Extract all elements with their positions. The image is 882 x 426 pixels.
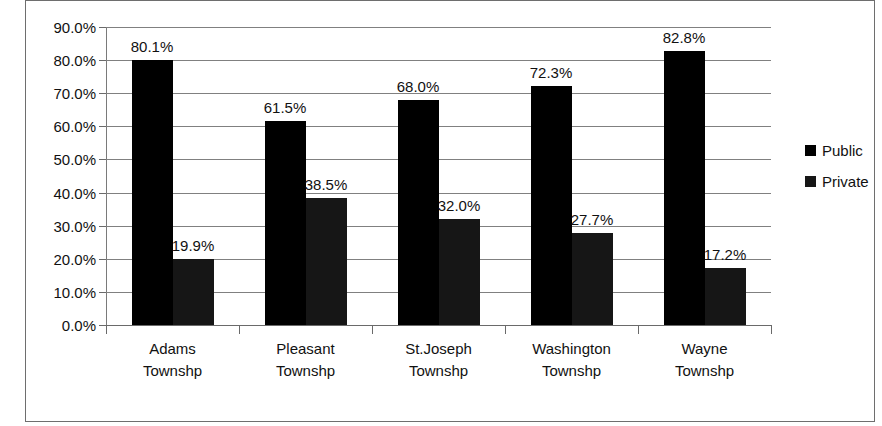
category-label-line: Townshp — [239, 360, 372, 382]
bar-private-1 — [306, 198, 347, 325]
category-label-line: St.Joseph — [372, 338, 505, 360]
bar-public-3 — [531, 86, 572, 325]
legend-label: Public — [822, 143, 863, 158]
y-axis-tick — [99, 93, 106, 94]
legend-swatch-icon — [805, 176, 816, 187]
y-axis-tick-label: 20.0% — [20, 252, 96, 267]
category-label-4: WayneTownshp — [638, 338, 771, 382]
bar-public-0 — [132, 60, 173, 325]
legend-swatch-icon — [805, 145, 816, 156]
data-label-public-0: 80.1% — [117, 39, 187, 54]
bar-private-3 — [572, 233, 613, 325]
category-label-line: Adams — [106, 338, 239, 360]
bar-private-4 — [705, 268, 746, 325]
y-axis-tick-label: 10.0% — [20, 285, 96, 300]
chart-screenshot: 0.0%10.0%20.0%30.0%40.0%50.0%60.0%70.0%8… — [0, 0, 882, 426]
y-axis-tick — [99, 60, 106, 61]
category-label-2: St.JosephTownshp — [372, 338, 505, 382]
category-tick — [372, 325, 373, 334]
data-label-public-4: 82.8% — [649, 30, 719, 45]
y-axis-tick-label: 50.0% — [20, 152, 96, 167]
category-label-line: Pleasant — [239, 338, 372, 360]
category-label-line: Townshp — [505, 360, 638, 382]
y-axis-tick-label: 40.0% — [20, 186, 96, 201]
y-axis-tick — [99, 193, 106, 194]
data-label-public-2: 68.0% — [383, 79, 453, 94]
legend-entry-public[interactable]: Public — [805, 143, 875, 158]
category-label-line: Townshp — [106, 360, 239, 382]
data-label-private-2: 32.0% — [424, 198, 494, 213]
category-label-3: WashingtonTownshp — [505, 338, 638, 382]
category-label-line: Townshp — [372, 360, 505, 382]
data-label-private-1: 38.5% — [291, 177, 361, 192]
y-axis-tick — [99, 325, 106, 326]
y-axis-tick-label: 80.0% — [20, 53, 96, 68]
category-label-line: Wayne — [638, 338, 771, 360]
data-label-private-4: 17.2% — [690, 247, 760, 262]
data-label-private-0: 19.9% — [158, 238, 228, 253]
category-tick — [771, 325, 772, 334]
bar-private-0 — [173, 259, 214, 325]
legend-label: Private — [822, 174, 869, 189]
y-axis-tick — [99, 259, 106, 260]
category-label-1: PleasantTownshp — [239, 338, 372, 382]
category-tick — [505, 325, 506, 334]
y-axis-tick-label: 60.0% — [20, 119, 96, 134]
legend-entry-private[interactable]: Private — [805, 174, 875, 189]
gridline — [106, 27, 771, 28]
y-axis-tick-label: 30.0% — [20, 219, 96, 234]
y-axis-tick — [99, 27, 106, 28]
category-axis-line — [106, 325, 772, 326]
data-label-public-1: 61.5% — [250, 100, 320, 115]
bar-public-4 — [664, 51, 705, 325]
y-axis-tick-label: 90.0% — [20, 20, 96, 35]
category-label-line: Townshp — [638, 360, 771, 382]
category-label-0: AdamsTownshp — [106, 338, 239, 382]
data-label-private-3: 27.7% — [557, 212, 627, 227]
bar-public-1 — [265, 121, 306, 325]
y-axis-tick — [99, 159, 106, 160]
y-axis-tick — [99, 226, 106, 227]
chart-legend: PublicPrivate — [805, 143, 875, 205]
bar-private-2 — [439, 219, 480, 325]
category-tick — [638, 325, 639, 334]
y-axis-tick-label: 70.0% — [20, 86, 96, 101]
y-axis-tick — [99, 292, 106, 293]
category-label-line: Washington — [505, 338, 638, 360]
category-tick — [239, 325, 240, 334]
y-axis-tick-label: 0.0% — [20, 318, 96, 333]
plot-area — [106, 27, 771, 325]
data-label-public-3: 72.3% — [516, 65, 586, 80]
y-axis-tick — [99, 126, 106, 127]
category-tick — [106, 325, 107, 334]
